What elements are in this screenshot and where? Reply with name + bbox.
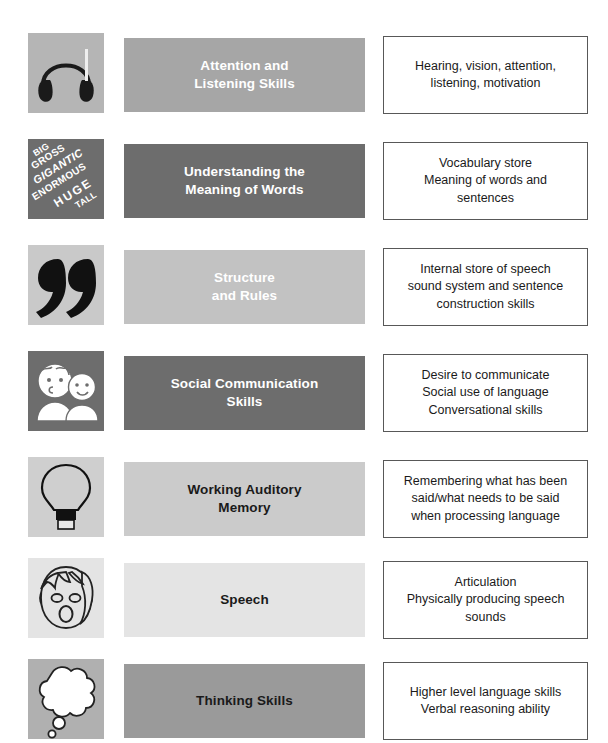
band-label: Structure and Rules xyxy=(204,269,285,305)
description-box-structure-and-rules: Internal store of speech sound system an… xyxy=(383,248,588,326)
band-label: Social Communication Skills xyxy=(163,375,327,411)
band-structure-and-rules: Structure and Rules xyxy=(124,250,365,324)
band-label: Speech xyxy=(212,591,277,609)
description-box-attention-listening: Hearing, vision, attention, listening, m… xyxy=(383,36,588,114)
headphones-icon xyxy=(28,33,104,113)
description-text: Hearing, vision, attention, listening, m… xyxy=(409,58,562,93)
two-people-icon xyxy=(28,351,104,431)
row-attention-listening: Attention and Listening Skills Hearing, … xyxy=(0,33,608,117)
description-box-speech: Articulation Physically producing speech… xyxy=(383,561,588,639)
row-structure-and-rules: Structure and Rules Internal store of sp… xyxy=(0,245,608,329)
face-speaking-icon xyxy=(28,558,104,638)
description-text: Desire to communicate Social use of lang… xyxy=(416,367,556,419)
row-social-communication: Social Communication Skills Desire to co… xyxy=(0,351,608,435)
description-text: Articulation Physically producing speech… xyxy=(401,574,571,626)
band-thinking-skills: Thinking Skills xyxy=(124,664,365,738)
band-label: Working Auditory Memory xyxy=(179,481,309,517)
row-working-auditory-memory: Working Auditory Memory Remembering what… xyxy=(0,457,608,541)
band-attention-listening: Attention and Listening Skills xyxy=(124,38,365,112)
band-label: Attention and Listening Skills xyxy=(186,57,303,93)
light-bulb-icon xyxy=(28,457,104,537)
description-box-thinking-skills: Higher level language skills Verbal reas… xyxy=(383,662,588,740)
word-cloud-words: BIG GROSS GIGANTIC ENORMOUS HUGE TALL xyxy=(28,139,104,219)
description-box-meaning-of-words: Vocabulary store Meaning of words and se… xyxy=(383,142,588,220)
band-social-communication: Social Communication Skills xyxy=(124,356,365,430)
band-meaning-of-words: Understanding the Meaning of Words xyxy=(124,144,365,218)
description-box-social-communication: Desire to communicate Social use of lang… xyxy=(383,354,588,432)
quotation-marks-icon xyxy=(28,245,104,325)
description-text: Remembering what has been said/what need… xyxy=(398,473,573,525)
band-speech: Speech xyxy=(124,563,365,637)
row-meaning-of-words: BIG GROSS GIGANTIC ENORMOUS HUGE TALL Un… xyxy=(0,139,608,223)
description-text: Higher level language skills Verbal reas… xyxy=(404,684,567,719)
description-text: Internal store of speech sound system an… xyxy=(402,261,570,313)
word-cloud-icon: BIG GROSS GIGANTIC ENORMOUS HUGE TALL xyxy=(28,139,104,219)
description-text: Vocabulary store Meaning of words and se… xyxy=(418,155,553,207)
band-working-auditory-memory: Working Auditory Memory xyxy=(124,462,365,536)
row-speech: Speech Articulation Physically producing… xyxy=(0,558,608,642)
description-box-working-auditory-memory: Remembering what has been said/what need… xyxy=(383,460,588,538)
band-label: Understanding the Meaning of Words xyxy=(176,163,313,199)
row-thinking-skills: Thinking Skills Higher level language sk… xyxy=(0,659,608,743)
band-label: Thinking Skills xyxy=(188,692,301,710)
thought-cloud-icon xyxy=(28,659,104,739)
